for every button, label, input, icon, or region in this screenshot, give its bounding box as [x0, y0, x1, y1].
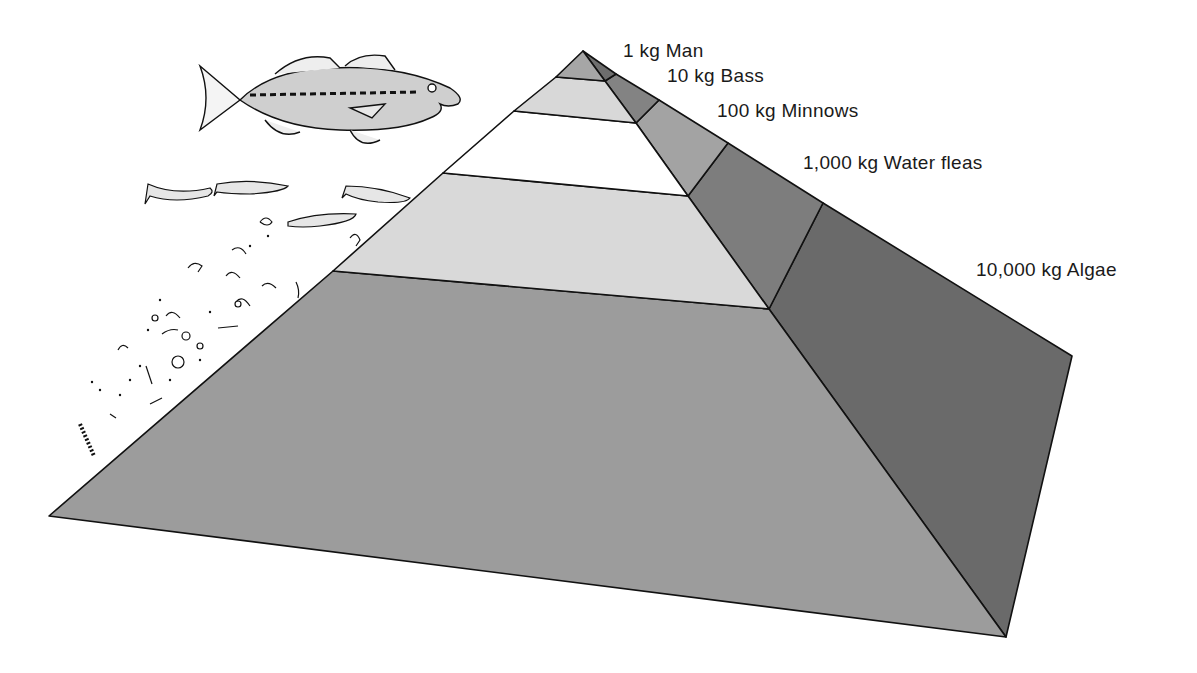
- minnows-illustration-icon: [145, 181, 410, 227]
- level-label-algae: 10,000 kg Algae: [976, 259, 1117, 281]
- level-label-man: 1 kg Man: [623, 40, 704, 62]
- bass-illustration-icon: [200, 55, 460, 143]
- level-label-minnows: 100 kg Minnows: [717, 100, 859, 122]
- level-label-water-fleas: 1,000 kg Water fleas: [803, 152, 983, 174]
- level-label-bass: 10 kg Bass: [667, 65, 764, 87]
- biomass-pyramid: [0, 0, 1197, 673]
